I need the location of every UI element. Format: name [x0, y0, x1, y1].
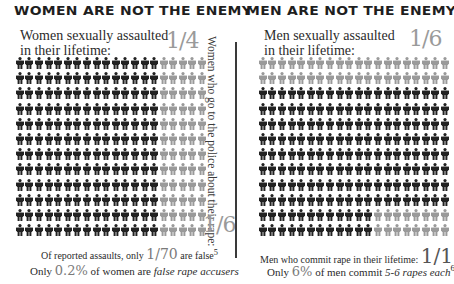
women-assaulted-fraction: 1/4 [166, 28, 198, 53]
person-icon [197, 57, 207, 72]
note-emphasis: 5-6 [385, 266, 402, 278]
person-icon [15, 57, 25, 72]
person-icon [121, 224, 131, 239]
person-icon [159, 133, 169, 148]
note-text: Only [267, 266, 292, 278]
person-icon [306, 148, 316, 163]
person-icon [325, 163, 335, 178]
person-icon [82, 133, 92, 148]
person-icon [316, 103, 326, 118]
person-icon [431, 209, 441, 224]
person-icon [421, 163, 431, 178]
person-icon [15, 163, 25, 178]
person-icon [421, 148, 431, 163]
person-icon [149, 194, 159, 209]
center-divider [235, 42, 237, 258]
person-icon [82, 57, 92, 72]
person-icon [25, 133, 35, 148]
person-icon [82, 209, 92, 224]
person-icon [373, 209, 383, 224]
person-icon [306, 87, 316, 102]
person-icon [316, 224, 326, 239]
person-icon [188, 87, 198, 102]
person-icon [431, 103, 441, 118]
person-icon [325, 57, 335, 72]
person-icon [306, 103, 316, 118]
person-icon [111, 103, 121, 118]
person-icon [63, 57, 73, 72]
person-icon [111, 194, 121, 209]
person-icon [140, 57, 150, 72]
person-icon [316, 179, 326, 194]
person-icon [335, 194, 345, 209]
men-icon-grid [258, 57, 450, 239]
person-icon [431, 87, 441, 102]
person-icon [335, 118, 345, 133]
person-icon [258, 163, 268, 178]
person-icon [73, 103, 83, 118]
person-icon [159, 224, 169, 239]
person-icon [287, 148, 297, 163]
person-icon [121, 209, 131, 224]
person-icon [44, 57, 54, 72]
person-icon [111, 72, 121, 87]
person-icon [383, 148, 393, 163]
person-icon [296, 133, 306, 148]
person-icon [440, 87, 450, 102]
person-icon [121, 148, 131, 163]
person-icon [149, 72, 159, 87]
person-icon [178, 118, 188, 133]
person-icon [197, 133, 207, 148]
person-icon [373, 224, 383, 239]
person-icon [306, 194, 316, 209]
person-icon [111, 179, 121, 194]
person-icon [344, 87, 354, 102]
person-icon [130, 118, 140, 133]
person-icon [121, 72, 131, 87]
person-icon [364, 194, 374, 209]
person-icon [140, 87, 150, 102]
person-icon [344, 118, 354, 133]
person-icon [335, 87, 345, 102]
person-icon [169, 224, 179, 239]
person-icon [268, 179, 278, 194]
person-icon [111, 133, 121, 148]
person-icon [344, 148, 354, 163]
person-icon [82, 148, 92, 163]
note-text: are false [178, 250, 214, 261]
person-icon [44, 118, 54, 133]
person-icon [383, 87, 393, 102]
person-icon [306, 118, 316, 133]
person-icon [149, 163, 159, 178]
person-icon [325, 133, 335, 148]
note-text: of women are [88, 265, 154, 277]
person-icon [159, 209, 169, 224]
person-icon [364, 148, 374, 163]
person-icon [15, 179, 25, 194]
person-icon [44, 209, 54, 224]
person-icon [15, 209, 25, 224]
person-icon [431, 148, 441, 163]
person-icon [287, 133, 297, 148]
person-icon [44, 72, 54, 87]
person-icon [130, 103, 140, 118]
person-icon [178, 57, 188, 72]
person-icon [178, 224, 188, 239]
person-icon [440, 148, 450, 163]
person-icon [277, 72, 287, 87]
person-icon [25, 57, 35, 72]
person-icon [92, 87, 102, 102]
person-icon [44, 133, 54, 148]
person-icon [431, 224, 441, 239]
person-icon [44, 148, 54, 163]
person-icon [383, 57, 393, 72]
men-assaulted-fraction: 1/6 [409, 26, 441, 51]
person-icon [402, 224, 412, 239]
person-icon [383, 163, 393, 178]
person-icon [34, 179, 44, 194]
person-icon [92, 224, 102, 239]
person-icon [178, 148, 188, 163]
person-icon [15, 133, 25, 148]
person-icon [344, 57, 354, 72]
person-icon [73, 72, 83, 87]
